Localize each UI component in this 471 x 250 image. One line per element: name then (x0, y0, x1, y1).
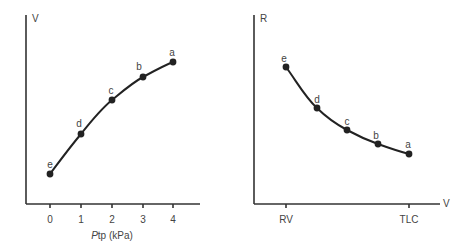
point-e (283, 64, 290, 71)
left-chart: V 0 1 2 3 4 Ptp (kPa) e d c b a (26, 13, 200, 241)
point-c (344, 127, 351, 134)
tick-label: 4 (170, 214, 176, 225)
point-label: d (314, 94, 320, 105)
point-label: d (76, 118, 82, 129)
point-label: e (47, 159, 53, 170)
tick-label: 2 (109, 214, 115, 225)
point-d (314, 105, 321, 112)
point-b (375, 141, 382, 148)
point-label: c (109, 85, 114, 96)
right-chart: R V RV TLC e d c b a (254, 13, 450, 225)
right-x-label: V (443, 198, 450, 209)
point-d (78, 131, 85, 138)
figure: V 0 1 2 3 4 Ptp (kPa) e d c b a R V (0, 0, 471, 250)
tick-label: 0 (47, 214, 53, 225)
point-c (109, 97, 116, 104)
tick-label: 1 (78, 214, 84, 225)
point-a (170, 59, 177, 66)
right-curve (286, 67, 409, 154)
tick-label: 3 (140, 214, 146, 225)
point-label: c (345, 116, 350, 127)
right-y-label: R (260, 13, 267, 24)
left-x-label: Ptp (kPa) (91, 230, 133, 241)
tick-label: RV (279, 214, 293, 225)
point-label: b (136, 61, 142, 72)
left-curve (50, 62, 173, 174)
left-y-label: V (32, 13, 39, 24)
point-e (47, 171, 54, 178)
point-label: b (373, 130, 379, 141)
point-label: a (405, 139, 411, 150)
point-label: e (281, 53, 287, 64)
tick-label: TLC (400, 214, 419, 225)
point-a (406, 151, 413, 158)
point-b (140, 74, 147, 81)
right-x-ticks: RV TLC (279, 204, 418, 225)
left-x-ticks: 0 1 2 3 4 (47, 204, 176, 225)
point-label: a (169, 47, 175, 58)
